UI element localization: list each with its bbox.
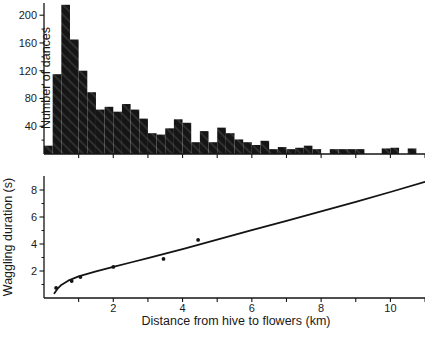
histogram-bar — [200, 131, 209, 154]
histogram-bar — [269, 149, 278, 154]
waggle-duration-panel: 2468246810Waggling duration (s)Distance … — [1, 176, 425, 328]
histogram-bar — [122, 104, 131, 154]
x-tick-label: 4 — [179, 302, 185, 314]
data-point — [196, 238, 200, 242]
histogram-bar — [157, 135, 166, 154]
y-tick-label: 80 — [25, 92, 37, 104]
histogram-bar — [44, 146, 53, 154]
histogram-bar — [113, 112, 122, 154]
data-point — [111, 265, 115, 269]
histogram-bar — [295, 148, 304, 154]
histogram-bar — [148, 133, 157, 154]
histogram-bar — [53, 74, 62, 154]
histogram-bar — [165, 128, 174, 154]
figure-canvas: 4080120160200Number of dances 2468246810… — [0, 0, 425, 338]
histogram-bar — [243, 142, 252, 154]
x-tick-label: 10 — [384, 302, 396, 314]
histogram-bar — [79, 71, 88, 154]
data-point — [70, 279, 74, 283]
histogram-bar — [174, 119, 183, 154]
histogram-bar — [96, 110, 105, 154]
histogram-bar — [312, 149, 321, 154]
y-tick-label: 8 — [31, 184, 37, 196]
histogram-bar — [235, 139, 244, 154]
data-point — [54, 286, 58, 290]
histogram-bar — [70, 39, 79, 154]
histogram-bar — [87, 92, 96, 154]
histogram-bar — [338, 149, 347, 154]
x-tick-label: 2 — [110, 302, 116, 314]
histogram-bar — [191, 142, 200, 154]
data-point — [162, 257, 166, 261]
y-axis-title: Waggling duration (s) — [1, 178, 15, 296]
x-axis-title: Distance from hive to flowers (km) — [142, 314, 331, 328]
histogram-bar — [261, 141, 270, 154]
y-tick-label: 200 — [19, 9, 37, 21]
histogram-bar — [131, 110, 140, 154]
histogram-bar — [105, 107, 114, 154]
histogram-bar — [61, 5, 70, 154]
histogram-bar — [390, 148, 399, 154]
histogram-bar — [304, 146, 313, 154]
histogram-bar — [286, 149, 295, 154]
fitted-curve — [54, 182, 425, 293]
y-tick-label: 2 — [31, 265, 37, 277]
histogram-bar — [226, 133, 235, 154]
dance-histogram-panel: 4080120160200Number of dances — [19, 3, 425, 158]
histogram-bar — [278, 147, 287, 154]
y-tick-label: 120 — [19, 65, 37, 77]
x-tick-label: 6 — [249, 302, 255, 314]
histogram-bar — [408, 148, 417, 154]
histogram-bar — [139, 119, 148, 154]
y-axis-title: Number of dances — [39, 27, 53, 129]
histogram-bar — [347, 149, 356, 154]
histogram-bar — [382, 148, 391, 154]
histogram-bar — [217, 128, 226, 154]
histogram-bar — [252, 145, 261, 154]
histogram-bar — [356, 149, 365, 154]
y-tick-label: 160 — [19, 37, 37, 49]
histogram-bar — [330, 149, 339, 154]
x-tick-label: 8 — [318, 302, 324, 314]
bee-dance-figure: 4080120160200Number of dances 2468246810… — [0, 0, 425, 338]
histogram-bar — [183, 123, 192, 154]
data-point — [79, 275, 83, 279]
y-tick-label: 6 — [31, 211, 37, 223]
histogram-bar — [209, 142, 218, 154]
y-tick-label: 40 — [25, 120, 37, 132]
y-tick-label: 4 — [31, 238, 37, 250]
histogram-bars — [44, 5, 416, 154]
